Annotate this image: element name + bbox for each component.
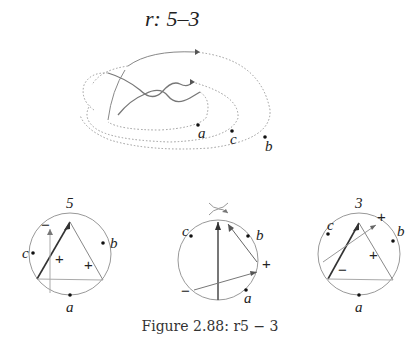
svg-text:+: +: [55, 250, 64, 267]
svg-text:a: a: [244, 290, 252, 306]
svg-text:c: c: [182, 223, 189, 239]
svg-text:−: −: [181, 282, 190, 299]
svg-text:b: b: [397, 223, 405, 239]
chord-diagram-3: 3 c b a + + −: [318, 195, 405, 315]
svg-text:a: a: [198, 125, 206, 141]
svg-text:a: a: [355, 299, 363, 315]
svg-text:5: 5: [66, 195, 74, 211]
svg-text:+: +: [84, 256, 93, 273]
svg-text:c: c: [22, 245, 29, 261]
arrow-icon: [190, 79, 195, 85]
figure-caption: Figure 2.88: r5 − 3: [0, 318, 420, 334]
svg-text:−: −: [338, 261, 347, 278]
knot-points: a c b: [196, 123, 273, 154]
svg-text:−: −: [41, 216, 50, 233]
svg-text:b: b: [256, 227, 264, 243]
arrow-icon: [195, 49, 200, 55]
svg-text:3: 3: [354, 195, 363, 211]
svg-text:a: a: [66, 299, 74, 315]
knot-drawing: [80, 52, 270, 149]
svg-text:c: c: [230, 131, 237, 147]
svg-text:b: b: [110, 235, 118, 251]
chord-diagram-crossing: c b a + −: [178, 203, 271, 306]
svg-text:+: +: [377, 208, 386, 225]
knot-diagram-canvas: a c b 5 c b a − + + c: [0, 0, 420, 346]
svg-text:+: +: [262, 255, 271, 272]
svg-text:+: +: [369, 246, 378, 263]
chord-diagram-5: 5 c b a − + +: [22, 195, 118, 315]
svg-text:c: c: [327, 217, 334, 233]
svg-text:b: b: [265, 138, 273, 154]
